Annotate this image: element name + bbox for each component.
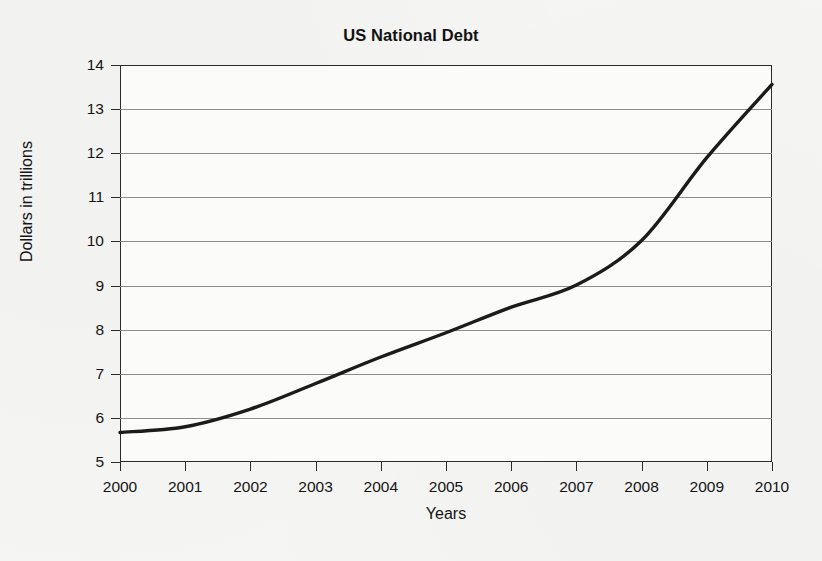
x-tick-mark bbox=[707, 462, 708, 471]
plot-area bbox=[120, 65, 772, 462]
y-tick-mark bbox=[111, 241, 120, 242]
y-tick-mark bbox=[111, 374, 120, 375]
x-tick-mark bbox=[316, 462, 317, 471]
x-tick-mark bbox=[250, 462, 251, 471]
x-tick-label: 2001 bbox=[168, 478, 202, 496]
x-axis-label: Years bbox=[120, 505, 772, 523]
y-tick-label: 10 bbox=[0, 232, 104, 250]
y-tick-mark bbox=[111, 65, 120, 66]
x-tick-mark bbox=[772, 462, 773, 471]
y-tick-mark bbox=[111, 286, 120, 287]
x-tick-label: 2002 bbox=[233, 478, 267, 496]
y-tick-label: 6 bbox=[0, 409, 104, 427]
y-tick-label: 11 bbox=[0, 188, 104, 206]
x-tick-mark bbox=[185, 462, 186, 471]
x-tick-mark bbox=[120, 462, 121, 471]
y-tick-label: 5 bbox=[0, 453, 104, 471]
y-tick-label: 9 bbox=[0, 277, 104, 295]
x-tick-mark bbox=[576, 462, 577, 471]
x-tick-mark bbox=[381, 462, 382, 471]
y-tick-label: 14 bbox=[0, 56, 104, 74]
debt-line-series bbox=[120, 65, 772, 462]
y-tick-mark bbox=[111, 197, 120, 198]
x-tick-label: 2009 bbox=[690, 478, 724, 496]
x-tick-label: 2010 bbox=[755, 478, 789, 496]
x-tick-mark bbox=[446, 462, 447, 471]
y-tick-mark bbox=[111, 462, 120, 463]
x-tick-label: 2007 bbox=[559, 478, 593, 496]
x-tick-mark bbox=[511, 462, 512, 471]
y-tick-mark bbox=[111, 330, 120, 331]
y-tick-label: 13 bbox=[0, 100, 104, 118]
y-tick-mark bbox=[111, 109, 120, 110]
x-tick-label: 2004 bbox=[364, 478, 398, 496]
y-tick-mark bbox=[111, 153, 120, 154]
y-tick-label: 7 bbox=[0, 365, 104, 383]
chart-page: US National Debt Dollars in trillions 14… bbox=[0, 0, 822, 561]
x-tick-label: 2008 bbox=[624, 478, 658, 496]
x-tick-label: 2003 bbox=[298, 478, 332, 496]
y-tick-label: 12 bbox=[0, 144, 104, 162]
x-tick-label: 2005 bbox=[429, 478, 463, 496]
chart-title: US National Debt bbox=[0, 26, 822, 45]
y-tick-label: 8 bbox=[0, 321, 104, 339]
x-tick-label: 2006 bbox=[494, 478, 528, 496]
debt-line-path bbox=[120, 84, 772, 432]
x-tick-label: 2000 bbox=[103, 478, 137, 496]
y-tick-mark bbox=[111, 418, 120, 419]
x-tick-mark bbox=[642, 462, 643, 471]
